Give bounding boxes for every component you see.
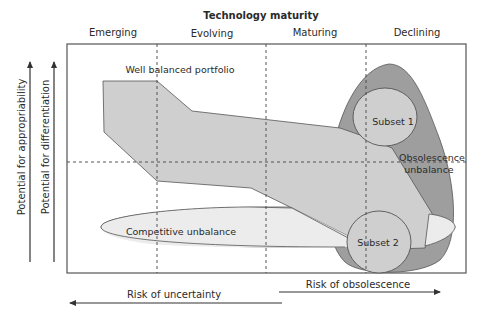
stage-label-emerging: Emerging [89, 27, 137, 38]
stage-label-maturing: Maturing [293, 27, 338, 38]
obsolescence-label-line2: unbalance [404, 164, 454, 175]
obsolescence-label-line1: Obsolescence [399, 152, 465, 163]
subset-2-label: Subset 2 [357, 237, 399, 248]
stage-label-evolving: Evolving [191, 28, 234, 39]
technology-maturity-diagram: Technology maturity Emerging Evolving Ma… [0, 0, 481, 322]
uncertainty-label: Risk of uncertainty [127, 289, 221, 300]
stage-label-declining: Declining [394, 27, 441, 38]
diagram-title: Technology maturity [203, 10, 319, 21]
differentiation-label: Potential for differentiation [40, 80, 51, 214]
obsolescence-axis-label: Risk of obsolescence [306, 279, 410, 290]
appropriability-label: Potential for appropriability [16, 79, 27, 216]
portfolio-label: Well balanced portfolio [125, 64, 234, 75]
competitive-label: Competitive unbalance [126, 226, 236, 237]
subset-1-label: Subset 1 [372, 116, 414, 127]
